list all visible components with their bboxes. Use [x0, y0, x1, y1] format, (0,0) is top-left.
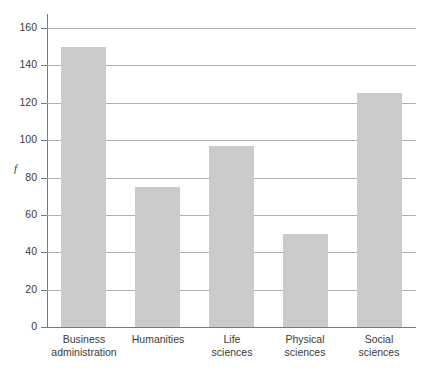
y-axis-tick	[41, 103, 47, 104]
y-axis-tick-label: 80	[0, 172, 37, 183]
bar-chart: f 020406080100120140160 Businessadminist…	[0, 0, 429, 373]
bar	[61, 47, 106, 327]
y-axis-tick-label: 160	[0, 22, 37, 33]
y-axis-tick	[41, 65, 47, 66]
x-axis-line	[47, 327, 416, 328]
y-axis-tick	[41, 28, 47, 29]
x-axis-tick-label: Socialsciences	[331, 333, 427, 358]
y-axis-line	[47, 14, 48, 328]
gridline	[47, 28, 416, 29]
y-axis-tick	[41, 252, 47, 253]
y-axis-tick	[41, 140, 47, 141]
y-axis-tick-label: 0	[0, 321, 37, 332]
y-axis-tick-label: 100	[0, 134, 37, 145]
x-axis-tick-label-line: sciences	[331, 346, 427, 359]
y-axis-tick-label: 120	[0, 97, 37, 108]
y-axis-tick	[41, 290, 47, 291]
y-axis-tick-label: 20	[0, 284, 37, 295]
bar	[357, 93, 402, 327]
x-axis-tick-label-line: administration	[36, 346, 132, 359]
y-axis-tick	[41, 178, 47, 179]
y-axis-tick-label: 140	[0, 59, 37, 70]
y-axis-tick-label: 40	[0, 246, 37, 257]
bar	[135, 187, 180, 327]
y-axis-tick	[41, 215, 47, 216]
x-axis-tick-label-line: Social	[331, 333, 427, 346]
bar	[283, 234, 328, 327]
y-axis-tick	[41, 327, 47, 328]
bar	[209, 146, 254, 327]
y-axis-tick-label: 60	[0, 209, 37, 220]
